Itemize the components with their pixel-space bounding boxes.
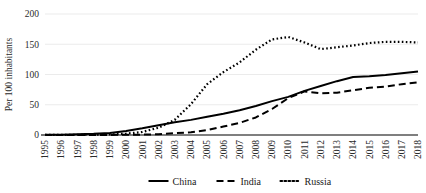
x-tick-label: 2006 xyxy=(219,140,229,159)
series-line-russia xyxy=(45,37,418,135)
y-axis-tick-labels: 050100150200 xyxy=(25,9,40,140)
series-line-india xyxy=(45,82,418,135)
y-gridlines xyxy=(45,14,418,105)
x-tick-label: 2001 xyxy=(138,140,148,159)
y-axis-title: Per 100 inhabitants xyxy=(4,38,14,112)
x-tick-label: 2008 xyxy=(251,140,261,159)
legend-label-india: India xyxy=(241,176,262,187)
x-tick-label: 2005 xyxy=(202,140,212,159)
x-tick-label: 2010 xyxy=(283,140,293,159)
x-tick-label: 2011 xyxy=(300,140,310,159)
y-tick-label: 100 xyxy=(25,70,40,80)
x-tick-label: 2002 xyxy=(154,140,164,159)
legend-label-russia: Russia xyxy=(305,176,332,187)
x-axis-tick-labels: 1995199619971998199920002001200220032004… xyxy=(40,140,423,159)
x-tick-label: 2018 xyxy=(413,140,423,159)
y-tick-label: 0 xyxy=(34,130,39,140)
chart-canvas: 050100150200Per 100 inhabitants199519961… xyxy=(0,0,426,193)
x-tick-label: 2016 xyxy=(381,140,391,159)
x-tick-label: 1998 xyxy=(89,140,99,159)
x-tick-label: 2012 xyxy=(316,140,326,159)
x-tick-label: 2015 xyxy=(365,140,375,159)
line-chart-figure: 050100150200Per 100 inhabitants199519961… xyxy=(0,0,426,193)
x-tick-label: 2007 xyxy=(235,140,245,159)
series-group xyxy=(45,37,418,135)
x-tick-label: 2000 xyxy=(121,140,131,159)
x-tick-label: 2014 xyxy=(348,140,358,159)
y-tick-label: 200 xyxy=(25,9,40,19)
legend: ChinaIndiaRussia xyxy=(149,176,332,187)
x-tick-label: 1999 xyxy=(105,140,115,159)
x-tick-label: 1997 xyxy=(73,140,83,159)
y-tick-label: 150 xyxy=(25,40,40,50)
x-tick-label: 2017 xyxy=(397,140,407,159)
x-tick-label: 1996 xyxy=(56,140,66,159)
y-tick-label: 50 xyxy=(30,100,40,110)
x-tick-label: 2013 xyxy=(332,140,342,159)
legend-label-china: China xyxy=(173,176,197,187)
x-tick-label: 2004 xyxy=(186,140,196,159)
x-tick-label: 2009 xyxy=(267,140,277,159)
x-tick-label: 1995 xyxy=(40,140,50,159)
x-tick-label: 2003 xyxy=(170,140,180,159)
